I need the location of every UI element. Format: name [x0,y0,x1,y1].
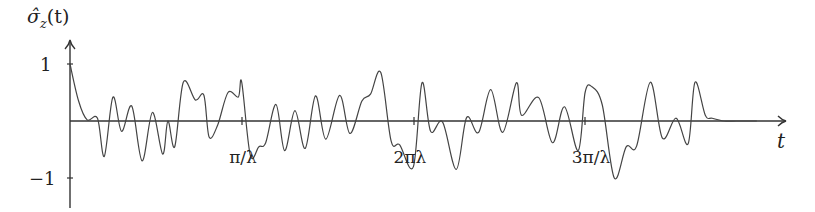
x-axis-label: t [777,129,786,153]
ytick-neg-label: −1 [29,168,56,189]
xtick-2-label: 2πλ [394,147,427,167]
ytick-pos-label: 1 [40,54,51,75]
y-axis-label: σ̂z(t) [27,5,69,31]
chart: σ̂z(t) 1 −1 π/λ 2πλ 3π/λ t [0,0,815,212]
xtick-1-label: π/λ [229,147,257,167]
xtick-3-label: 3π/λ [572,147,611,167]
